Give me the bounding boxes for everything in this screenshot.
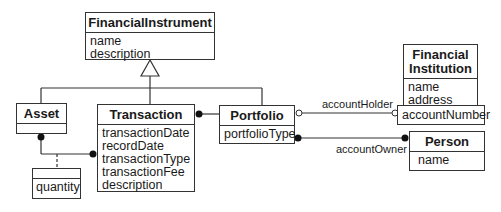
class-attributes: name description: [86, 33, 214, 64]
class-asset[interactable]: Asset: [16, 103, 67, 134]
class-attributes: transactionDate recordDate transactionTy…: [98, 125, 194, 195]
class-name: FinancialInstrument: [86, 13, 214, 33]
class-person[interactable]: Person name: [409, 131, 485, 171]
qualifier-account-number[interactable]: accountNumber: [397, 105, 485, 125]
class-name: Portfolio: [220, 106, 294, 126]
many-dot-icon: [90, 151, 97, 158]
class-attributes: name: [410, 152, 484, 170]
class-transaction[interactable]: Transaction transactionDate recordDate t…: [97, 104, 195, 192]
qualifier-label: accountNumber: [398, 106, 484, 125]
class-name: Financial Institution: [404, 45, 477, 79]
attribute: portfolioType: [224, 128, 290, 141]
association-label-account-owner: accountOwner: [336, 143, 407, 155]
class-portfolio[interactable]: Portfolio portfolioType: [219, 105, 295, 144]
class-name: [33, 169, 80, 179]
many-dot-icon: [402, 135, 409, 142]
attribute: description: [102, 179, 190, 192]
many-dot-icon: [196, 111, 203, 118]
class-attributes: quantity: [33, 179, 80, 196]
association-label-account-holder: accountHolder: [322, 98, 393, 110]
attribute: description: [90, 48, 210, 61]
class-financial-instrument[interactable]: FinancialInstrument name description: [85, 12, 215, 60]
class-name: Person: [410, 132, 484, 152]
class-financial-institution[interactable]: Financial Institution name address: [403, 44, 478, 106]
attribute: quantity: [36, 181, 77, 194]
class-name: Transaction: [98, 105, 194, 125]
many-dot-icon: [38, 134, 45, 141]
class-attributes: portfolioType: [220, 126, 294, 144]
optional-circle-icon: [296, 110, 302, 116]
class-link-attribute[interactable]: quantity: [32, 168, 81, 199]
class-name: Asset: [17, 104, 66, 124]
attribute: name: [418, 154, 480, 167]
